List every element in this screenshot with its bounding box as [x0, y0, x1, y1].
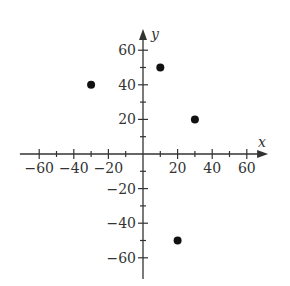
- x-axis-arrow-icon: [257, 150, 268, 158]
- x-tick-label: 20: [169, 160, 187, 176]
- data-point: [191, 115, 199, 123]
- x-axis: −60−40−20204060x: [20, 134, 268, 176]
- data-point: [174, 237, 182, 245]
- x-tick-label: 60: [238, 160, 256, 176]
- x-tick-label: −60: [24, 160, 54, 176]
- x-tick-label: 40: [203, 160, 221, 176]
- y-axis-label: y: [150, 26, 160, 42]
- y-axis-arrow-icon: [139, 29, 147, 40]
- data-point: [156, 64, 164, 72]
- y-tick-label: −40: [106, 215, 136, 231]
- y-tick-label: 60: [118, 42, 136, 58]
- x-tick-label: −40: [59, 160, 89, 176]
- scatter-plot: −60−40−20204060x−60−40−20204060y: [0, 0, 290, 286]
- y-tick-label: −20: [106, 181, 136, 197]
- y-tick-label: 20: [118, 111, 136, 127]
- x-axis-label: x: [258, 134, 266, 150]
- y-tick-label: −60: [106, 250, 136, 266]
- y-axis: −60−40−20204060y: [106, 26, 160, 279]
- x-tick-label: −20: [94, 160, 124, 176]
- data-point: [87, 81, 95, 89]
- y-tick-label: 40: [118, 77, 136, 93]
